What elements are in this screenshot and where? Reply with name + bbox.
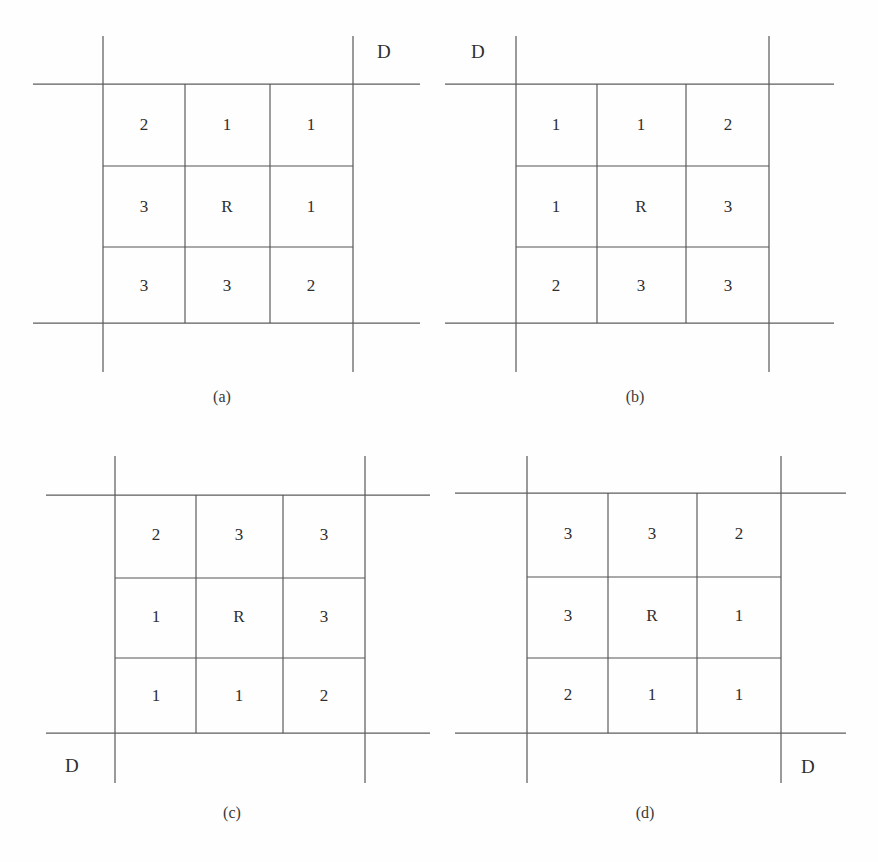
caption-c: (c) xyxy=(223,805,241,821)
cell-b-0-1: 1 xyxy=(637,115,646,134)
cell-a-1-0: 3 xyxy=(140,197,149,216)
panel-d: 3 3 2 3 R 1 2 1 1 D (d) xyxy=(440,420,878,862)
cell-c-2-2: 2 xyxy=(320,686,329,705)
cell-a-1-2: 1 xyxy=(307,197,316,216)
caption-b: (b) xyxy=(626,389,645,405)
cell-d-2-2: 1 xyxy=(735,685,744,704)
cell-a-2-1: 3 xyxy=(223,276,232,295)
cell-c-0-0: 2 xyxy=(152,525,161,544)
cell-b-2-1: 3 xyxy=(637,276,646,295)
cell-b-0-0: 1 xyxy=(552,115,561,134)
cell-c-1-0: 1 xyxy=(152,607,161,626)
cell-c-0-2: 3 xyxy=(320,525,329,544)
cell-d-0-1: 3 xyxy=(648,524,657,543)
panel-c: 2 3 3 1 R 3 1 1 2 D (c) xyxy=(0,420,440,862)
panel-a: 2 1 1 3 R 1 3 3 2 D (a) xyxy=(0,0,440,420)
cell-a-0-1: 1 xyxy=(223,115,232,134)
direction-label-a: D xyxy=(377,42,391,61)
direction-label-b: D xyxy=(471,42,485,61)
cell-a-0-0: 2 xyxy=(140,115,149,134)
cell-c-0-1: 3 xyxy=(235,525,244,544)
cell-c-1-2: 3 xyxy=(320,607,329,626)
cell-a-2-0: 3 xyxy=(140,276,149,295)
cell-c-2-1: 1 xyxy=(235,686,244,705)
cell-d-2-0: 2 xyxy=(564,685,573,704)
cell-a-1-1: R xyxy=(221,197,233,216)
cell-d-0-2: 2 xyxy=(735,524,744,543)
cell-b-1-0: 1 xyxy=(552,197,561,216)
cell-b-2-0: 2 xyxy=(552,276,561,295)
cell-a-2-2: 2 xyxy=(307,276,316,295)
direction-label-c: D xyxy=(65,756,79,775)
cell-d-0-0: 3 xyxy=(564,524,573,543)
cell-b-2-2: 3 xyxy=(724,276,733,295)
cell-b-1-1: R xyxy=(635,197,647,216)
cell-d-1-1: R xyxy=(646,606,658,625)
cell-b-1-2: 3 xyxy=(724,197,733,216)
direction-label-d: D xyxy=(801,757,815,776)
figure-canvas: 2 1 1 3 R 1 3 3 2 D (a) 1 1 2 xyxy=(0,0,878,862)
panel-b: 1 1 2 1 R 3 2 3 3 D (b) xyxy=(440,0,878,420)
cell-d-1-0: 3 xyxy=(564,606,573,625)
cell-c-2-0: 1 xyxy=(152,686,161,705)
cell-d-1-2: 1 xyxy=(735,606,744,625)
cell-d-2-1: 1 xyxy=(648,685,657,704)
cell-b-0-2: 2 xyxy=(724,115,733,134)
caption-d: (d) xyxy=(636,805,655,821)
caption-a: (a) xyxy=(213,389,231,405)
cell-c-1-1: R xyxy=(233,607,245,626)
cell-a-0-2: 1 xyxy=(307,115,316,134)
